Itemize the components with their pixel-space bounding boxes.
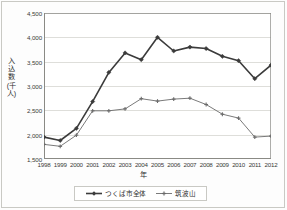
legend-entry-2[interactable]: 筑波山 xyxy=(155,190,195,198)
y-tick-label: 2,000 xyxy=(2,131,42,138)
y-tick-label: 4,500 xyxy=(2,10,42,17)
y-tick-label: 3,500 xyxy=(2,58,42,65)
legend-entry-1[interactable]: つくば市全体 xyxy=(85,190,146,198)
plot-area xyxy=(44,13,271,159)
legend-label: つくば市全体 xyxy=(105,190,146,198)
y-tick-label: 3,000 xyxy=(2,83,42,90)
plot-svg xyxy=(44,13,271,159)
y-tick-label: 4,000 xyxy=(2,34,42,41)
legend-line-cross-icon xyxy=(155,190,173,197)
legend-line-diamond-icon xyxy=(85,190,103,197)
x-tick-label: 2012 xyxy=(260,161,282,169)
visitor-count-line-chart: 入込数(千人) 4,5004,0003,5003,0002,5002,0001,… xyxy=(0,0,287,210)
legend: つくば市全体筑波山 xyxy=(74,186,207,201)
legend-label: 筑波山 xyxy=(175,190,195,198)
y-axis-tick-labels: 4,5004,0003,5003,0002,5002,0001,500 xyxy=(0,13,42,159)
x-axis-title: 年 xyxy=(0,170,287,179)
y-tick-label: 2,500 xyxy=(2,107,42,114)
